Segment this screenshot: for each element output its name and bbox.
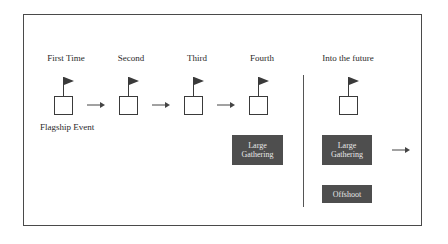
large-gathering-line2: Gathering: [242, 150, 274, 159]
stage-node-first-time: [53, 76, 81, 116]
flagship-event-caption: Flagship Event: [40, 122, 94, 132]
large-gathering-box-fourth: Large Gathering: [232, 135, 283, 165]
offshoot-box: Offshoot: [322, 185, 372, 203]
present-future-divider: [303, 75, 304, 207]
large-gathering-line1: Large: [338, 141, 357, 150]
stage-node-into-the-future: [338, 76, 366, 116]
arrow-right-icon: [391, 146, 411, 154]
flag-icon: [338, 76, 366, 116]
stage-label-fourth: Fourth: [250, 53, 274, 63]
stage-label-first-time: First Time: [47, 53, 84, 63]
offshoot-label: Offshoot: [333, 190, 361, 199]
stage-label-third: Third: [187, 53, 207, 63]
stage-node-third: [183, 76, 211, 116]
stage-node-fourth: [248, 76, 276, 116]
stage-label-second: Second: [118, 53, 145, 63]
flag-icon: [53, 76, 81, 116]
arrow-right-icon: [86, 101, 106, 109]
large-gathering-box-future: Large Gathering: [322, 135, 372, 165]
flag-icon: [248, 76, 276, 116]
flag-icon: [118, 76, 146, 116]
large-gathering-line2: Gathering: [331, 150, 363, 159]
flag-icon: [183, 76, 211, 116]
large-gathering-line1: Large: [248, 141, 267, 150]
stage-node-second: [118, 76, 146, 116]
stage-label-into-the-future: Into the future: [322, 53, 373, 63]
arrow-right-icon: [216, 101, 236, 109]
arrow-right-icon: [151, 101, 171, 109]
